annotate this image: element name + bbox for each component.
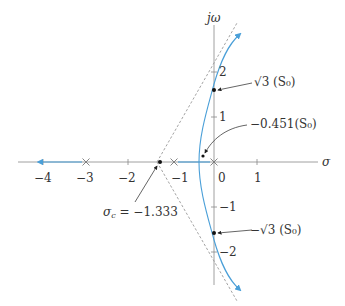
centroid-label: σc = −1.333: [103, 205, 178, 220]
jw-crossing-upper-point: [212, 88, 216, 92]
x-tick-labels: −4 −3 −2 −1 0 1: [34, 171, 262, 185]
x-tick-label: −4: [34, 171, 52, 185]
x-tick-label: −1: [171, 171, 189, 185]
y-tick-label: 2: [219, 65, 227, 79]
jw-crossing-lower-label: −√3 (S₀): [250, 223, 302, 237]
breakaway-point: [201, 154, 204, 157]
asymptote-upper: [157, 23, 237, 162]
x-tick-label: 0: [218, 171, 226, 185]
sigma-axis-label: σ: [322, 155, 331, 169]
x-tick-label: 1: [254, 171, 262, 185]
jw-axis-label: jω: [204, 11, 221, 25]
centroid-point: [158, 160, 162, 164]
breakaway-label: −0.451(S₀): [250, 117, 317, 131]
y-tick-label: −2: [219, 245, 237, 259]
root-locus-diagram: −4 −3 −2 −1 0 1 2 1 −1 −2 jω σ √3 (S₀) −…: [0, 0, 345, 306]
x-tick-label: −3: [76, 171, 94, 185]
y-tick-label: 1: [219, 110, 227, 124]
y-tick-label: −1: [219, 200, 237, 214]
x-tick-label: −2: [118, 171, 136, 185]
jw-crossing-upper-label: √3 (S₀): [254, 75, 296, 89]
jw-crossing-lower-point: [212, 231, 216, 235]
